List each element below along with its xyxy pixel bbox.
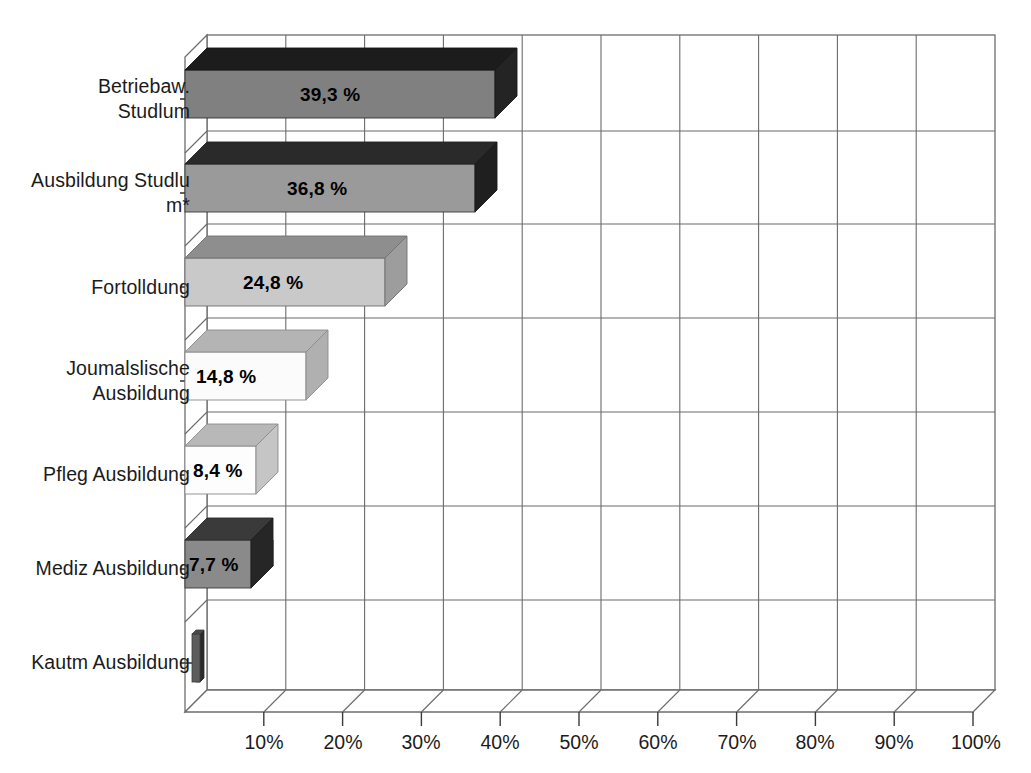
x-axis-labels: 10% 20% 30% 40% 50% 60% 70% 80% 90% 100%	[0, 0, 1031, 773]
x-tick-label-60: 60%	[638, 731, 677, 754]
data-label-pfleg-ausbildung: 8,4 %	[193, 460, 243, 482]
x-tick-label-30: 30%	[401, 731, 440, 754]
x-tick-label-50: 50%	[559, 731, 598, 754]
data-label-ausbildung-studlum: 36,8 %	[287, 178, 347, 200]
x-tick-label-20: 20%	[323, 731, 362, 754]
x-tick-label-90: 90%	[874, 731, 913, 754]
x-tick-label-10: 10%	[244, 731, 283, 754]
bar-chart: Betriebaw. Studlum Ausbildung Studlu m* …	[0, 0, 1031, 773]
x-tick-label-80: 80%	[795, 731, 834, 754]
x-tick-label-100: 100%	[951, 731, 1001, 754]
data-label-joumalslische-ausbildung: 14,8 %	[196, 366, 256, 388]
data-label-betriebaw-studlum: 39,3 %	[300, 84, 360, 106]
data-label-fortolldung: 24,8 %	[243, 272, 303, 294]
data-label-mediz-ausbildung: 7,7 %	[189, 554, 239, 576]
x-tick-label-40: 40%	[480, 731, 519, 754]
x-tick-label-70: 70%	[717, 731, 756, 754]
